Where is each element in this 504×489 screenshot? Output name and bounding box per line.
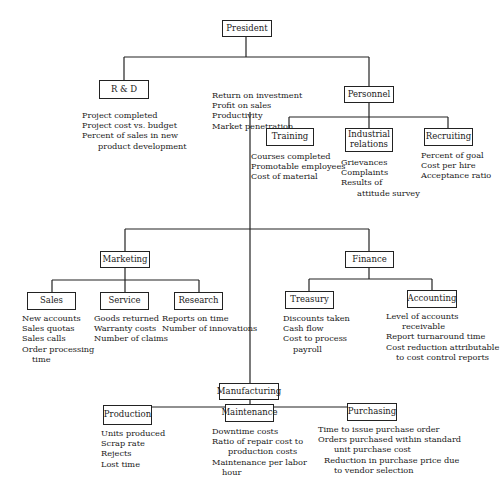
metrics-purchasing: Time to issue purchase order Orders purc…	[318, 424, 461, 475]
metric-item: Cost to process	[283, 333, 350, 343]
metric-item: Rejects	[101, 448, 165, 458]
metrics-sales: New accounts Sales quotas Sales calls Or…	[22, 313, 94, 364]
metric-item: Orders purchased within standard	[318, 434, 461, 444]
metric-item: Project cost vs. budget	[82, 120, 187, 130]
metric-item: Sales calls	[22, 333, 94, 343]
node-label: Manufacturing	[217, 387, 281, 397]
metric-item: Reports on time	[162, 313, 257, 323]
metric-item: Cost per hire	[421, 160, 491, 170]
node-president: President	[222, 20, 272, 37]
node-label-line2: relations	[350, 140, 388, 150]
metrics-rnd: Project completed Project cost vs. budge…	[82, 110, 187, 151]
metric-item: Number of innovations	[162, 323, 257, 333]
metric-item: Grievances	[341, 157, 420, 167]
metric-item: Promotable employees	[251, 161, 345, 171]
node-finance: Finance	[345, 251, 394, 268]
metric-item: production costs	[212, 446, 307, 456]
metric-item: Results of	[341, 177, 420, 187]
metric-item: Report turnaround time	[386, 331, 499, 341]
node-recruiting: Recruiting	[424, 128, 473, 146]
metric-item: Cost of material	[251, 171, 345, 181]
metric-item: Warranty costs	[94, 323, 168, 333]
metric-item: Downtime costs	[212, 426, 307, 436]
node-research: Research	[174, 292, 223, 310]
node-marketing: Marketing	[100, 251, 150, 268]
metric-item: Units produced	[101, 428, 165, 438]
node-personnel: Personnel	[344, 86, 394, 103]
node-manufacturing: Manufacturing	[219, 383, 279, 400]
node-label: R & D	[111, 85, 137, 95]
metric-item: attitude survey	[341, 188, 420, 198]
metric-item: Courses completed	[251, 151, 345, 161]
metric-item: Time to issue purchase order	[318, 424, 461, 434]
metric-item: Discounts taken	[283, 313, 350, 323]
metric-item: Profit on sales	[212, 100, 302, 110]
node-label: Marketing	[102, 255, 147, 265]
metric-item: Number of claims	[94, 333, 168, 343]
metrics-research: Reports on time Number of innovations	[162, 313, 257, 333]
metric-item: New accounts	[22, 313, 94, 323]
metrics-recruiting: Percent of goal Cost per hire Acceptance…	[421, 150, 491, 181]
node-label: Production	[104, 410, 151, 420]
node-service: Service	[100, 292, 149, 310]
metric-item: payroll	[283, 344, 350, 354]
metric-item: Percent of goal	[421, 150, 491, 160]
metric-item: Percent of sales in new	[82, 130, 187, 140]
metric-item: Reduction in purchase price due	[318, 455, 461, 465]
metric-item: Sales quotas	[22, 323, 94, 333]
node-sales: Sales	[27, 292, 76, 310]
node-label: Service	[108, 296, 140, 306]
metric-item: Project completed	[82, 110, 187, 120]
metric-item: Maintenance per labor	[212, 457, 307, 467]
metric-item: hour	[212, 467, 307, 477]
metrics-accounting: Level of accounts receivable Report turn…	[386, 311, 499, 362]
metric-item: Order processing	[22, 344, 94, 354]
node-accounting: Accounting	[407, 290, 457, 308]
metric-item: product development	[82, 141, 187, 151]
metric-item: Ratio of repair cost to	[212, 436, 307, 446]
metrics-service: Goods returned Warranty costs Number of …	[94, 313, 168, 344]
node-label: Recruiting	[426, 132, 472, 142]
node-label: Personnel	[348, 90, 391, 100]
metric-item: Return on investment	[212, 90, 302, 100]
node-label: Maintenance	[221, 408, 277, 418]
metrics-industrial-relations: Grievances Complaints Results of attitud…	[341, 157, 420, 198]
node-label: Sales	[40, 296, 63, 306]
metrics-production: Units produced Scrap rate Rejects Lost t…	[101, 428, 165, 469]
metric-item: receivable	[386, 321, 499, 331]
metric-item: Goods returned	[94, 313, 168, 323]
node-maintenance: Maintenance	[225, 404, 274, 422]
node-label: Training	[272, 132, 309, 142]
metrics-treasury: Discounts taken Cash flow Cost to proces…	[283, 313, 350, 354]
node-rnd: R & D	[99, 80, 149, 99]
node-label: President	[226, 24, 267, 34]
metrics-president: Return on investment Profit on sales Pro…	[212, 90, 302, 131]
node-label: Finance	[352, 255, 386, 265]
node-purchasing: Purchasing	[347, 403, 397, 421]
metric-item: unit purchase cost	[318, 444, 461, 454]
metrics-training: Courses completed Promotable employees C…	[251, 151, 345, 182]
metric-item: to vendor selection	[318, 465, 461, 475]
node-production: Production	[103, 405, 152, 425]
metric-item: Complaints	[341, 167, 420, 177]
metric-item: Lost time	[101, 459, 165, 469]
node-industrial-relations: Industrial relations	[345, 128, 393, 152]
node-label: Accounting	[408, 294, 457, 304]
node-treasury: Treasury	[285, 291, 334, 309]
metric-item: Level of accounts	[386, 311, 499, 321]
metric-item: Cost reduction attributable	[386, 342, 499, 352]
metric-item: to cost control reports	[386, 352, 499, 362]
metric-item: Scrap rate	[101, 438, 165, 448]
metric-item: Cash flow	[283, 323, 350, 333]
node-label: Treasury	[290, 295, 329, 305]
node-label: Research	[178, 296, 218, 306]
metric-item: Acceptance ratio	[421, 170, 491, 180]
metric-item: Productivity	[212, 110, 302, 120]
node-training: Training	[266, 128, 314, 146]
node-label: Purchasing	[348, 407, 397, 417]
metrics-maintenance: Downtime costs Ratio of repair cost to p…	[212, 426, 307, 477]
metric-item: time	[22, 354, 94, 364]
